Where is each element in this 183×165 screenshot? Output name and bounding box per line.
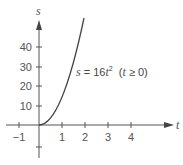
y-axis-label: s: [36, 4, 41, 18]
x-tick-label: −1: [13, 131, 26, 143]
equation-label: s = 16t2 (t ≥ 0): [76, 65, 148, 79]
y-tick-label: 20: [20, 80, 32, 92]
y-tick-label: 30: [20, 61, 32, 73]
y-tick-label: 40: [20, 41, 32, 53]
x-axis-label: t: [176, 118, 180, 132]
x-tick-label: 2: [82, 131, 88, 143]
x-tick-label: 1: [59, 131, 65, 143]
y-axis-arrow-icon: [36, 20, 42, 30]
x-tick-label: 4: [128, 131, 134, 143]
y-tick-label: 10: [20, 100, 32, 112]
x-tick-label: 3: [105, 131, 111, 143]
chart: −1 1 2 3 4 40 30 20 10 t s s = 16t2 (t ≥…: [0, 0, 183, 165]
x-axis-arrow-icon: [164, 122, 174, 128]
